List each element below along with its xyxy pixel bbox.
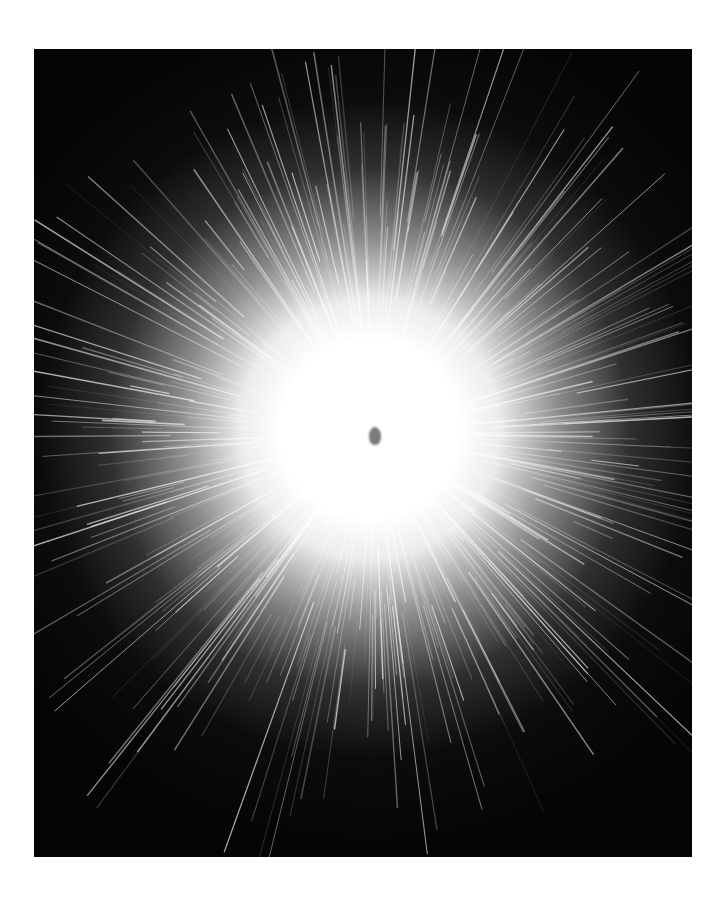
sparkler-photo xyxy=(34,49,692,857)
sparkler-core xyxy=(369,427,381,445)
sparkler-glow xyxy=(34,49,692,857)
